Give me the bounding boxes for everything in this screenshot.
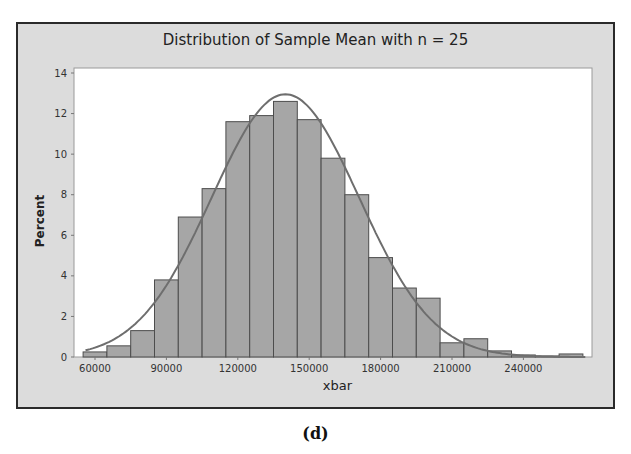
x-tick-label: 210000 bbox=[433, 363, 471, 374]
y-tick-label: 0 bbox=[61, 352, 67, 363]
y-tick-label: 12 bbox=[54, 108, 67, 119]
histogram-bar bbox=[178, 217, 202, 357]
histogram-bar bbox=[274, 101, 298, 357]
histogram-bar bbox=[321, 158, 345, 357]
histogram-bar bbox=[345, 195, 369, 357]
y-tick-label: 8 bbox=[61, 189, 67, 200]
x-tick-label: 180000 bbox=[362, 363, 400, 374]
histogram-bar bbox=[202, 189, 226, 357]
histogram-bar bbox=[440, 343, 464, 357]
histogram-bar bbox=[297, 120, 321, 357]
y-tick-label: 6 bbox=[61, 230, 67, 241]
y-tick-label: 2 bbox=[61, 311, 67, 322]
y-tick-label: 14 bbox=[54, 68, 67, 79]
histogram-bar bbox=[369, 258, 393, 357]
histogram-bar bbox=[83, 352, 107, 357]
x-tick-label: 240000 bbox=[504, 363, 542, 374]
histogram-bar bbox=[250, 116, 274, 357]
y-tick-label: 4 bbox=[61, 270, 67, 281]
y-tick-label: 10 bbox=[54, 149, 67, 160]
histogram-bar bbox=[131, 331, 155, 357]
x-tick-label: 90000 bbox=[150, 363, 182, 374]
x-tick-label: 60000 bbox=[79, 363, 111, 374]
x-tick-label: 150000 bbox=[290, 363, 328, 374]
histogram-plot: 0246810121460000900001200001500001800002… bbox=[0, 0, 631, 454]
histogram-bar bbox=[155, 280, 179, 357]
histogram-bar bbox=[226, 122, 250, 357]
histogram-bar bbox=[107, 346, 131, 357]
x-tick-label: 120000 bbox=[219, 363, 257, 374]
